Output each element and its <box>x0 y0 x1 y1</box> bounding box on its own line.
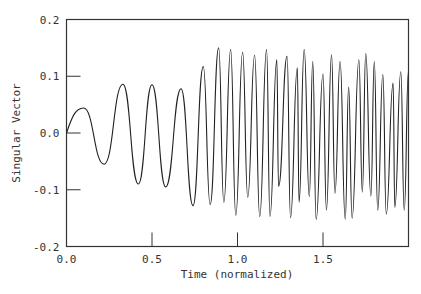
x-tick-label: 0.0 <box>57 253 77 266</box>
y-tick-label: 0.1 <box>40 70 60 83</box>
y-axis-ticks: -0.2-0.10.00.10.2 <box>33 14 81 254</box>
y-tick-label: 0.0 <box>40 127 60 140</box>
y-axis-label: Singular Vector <box>10 83 23 183</box>
plot-frame <box>67 20 409 247</box>
y-tick-label: -0.2 <box>33 241 60 254</box>
y-tick-label: -0.1 <box>33 184 60 197</box>
chart: -0.2-0.10.00.10.2 0.00.51.01.5 Time (nor… <box>0 0 421 294</box>
y-tick-label: 0.2 <box>40 14 60 27</box>
singular-vector-line <box>67 48 409 219</box>
x-tick-label: 0.5 <box>142 253 162 266</box>
x-tick-label: 1.5 <box>313 253 333 266</box>
x-axis-label: Time (normalized) <box>181 268 294 281</box>
x-tick-label: 1.0 <box>228 253 248 266</box>
x-axis-ticks: 0.00.51.01.5 <box>57 233 333 266</box>
